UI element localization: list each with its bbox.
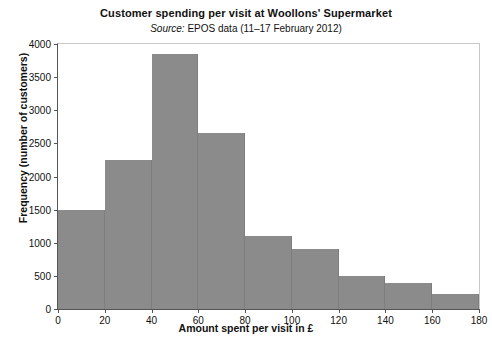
y-axis-tick-label: 500 [5,270,58,281]
histogram-bar [432,294,479,309]
chart-subtitle: Source: EPOS data (11–17 February 2012) [0,23,492,34]
x-axis-tick-mark [198,309,199,313]
x-axis-tick-label: 80 [240,315,251,326]
y-axis-tick-mark [54,243,58,244]
y-axis-tick-mark [54,110,58,111]
y-axis-tick-mark [54,44,58,45]
x-axis-tick-label: 160 [424,315,441,326]
x-axis-tick-label: 100 [284,315,301,326]
histogram-bar [152,54,199,309]
x-axis-tick-mark [245,309,246,313]
x-axis-tick-label: 40 [146,315,157,326]
histogram-figure: Customer spending per visit at Woollons'… [0,0,492,344]
x-axis-tick-mark [339,309,340,313]
histogram-bar [385,283,432,310]
chart-subtitle-source-text: EPOS data (11–17 February 2012) [185,23,342,34]
x-axis-tick-label: 0 [55,315,61,326]
x-axis-tick-label: 180 [471,315,488,326]
y-axis-tick-mark [54,210,58,211]
histogram-bar [198,133,245,309]
x-axis-tick-label: 120 [330,315,347,326]
x-axis-tick-label: 140 [377,315,394,326]
x-axis-tick-mark [479,309,480,313]
x-axis-tick-label: 20 [99,315,110,326]
plot-area: 0500100015002000250030003500400002040608… [57,43,480,310]
histogram-bar [292,249,339,309]
y-axis-tick-mark [54,276,58,277]
bars-container [58,44,479,309]
x-axis-tick-mark [292,309,293,313]
histogram-bar [105,160,152,309]
x-axis-tick-mark [58,309,59,313]
x-axis-tick-label: 60 [193,315,204,326]
y-axis-tick-label: 2500 [5,138,58,149]
chart-subtitle-source-label: Source: [150,23,184,34]
x-axis-tick-mark [105,309,106,313]
y-axis-tick-mark [54,177,58,178]
y-axis-tick-mark [54,77,58,78]
y-axis-tick-label: 3500 [5,72,58,83]
y-axis-tick-label: 3000 [5,105,58,116]
y-axis-tick-label: 4000 [5,39,58,50]
y-axis-tick-label: 2000 [5,171,58,182]
y-axis-tick-mark [54,143,58,144]
x-axis-tick-mark [152,309,153,313]
y-axis-tick-label: 1000 [5,237,58,248]
chart-title: Customer spending per visit at Woollons'… [0,7,492,19]
histogram-bar [245,236,292,309]
x-axis-tick-mark [385,309,386,313]
y-axis-tick-label: 1500 [5,204,58,215]
histogram-bar [58,210,105,309]
histogram-bar [339,276,386,309]
x-axis-tick-mark [432,309,433,313]
y-axis-tick-label: 0 [5,304,58,315]
